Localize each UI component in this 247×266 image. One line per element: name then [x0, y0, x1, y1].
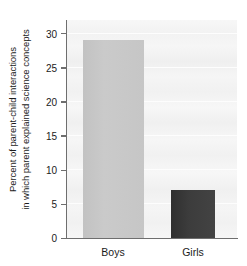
y-tick-label-25: 25 [17, 63, 57, 74]
x-category-label-boys: Boys [73, 246, 153, 258]
y-tick-mark [61, 33, 67, 34]
y-axis-title-line-2: in which parent explained science concep… [19, 29, 32, 210]
x-axis-line [66, 238, 238, 239]
y-tick-label-5: 5 [17, 199, 57, 210]
y-tick-mark [61, 204, 67, 205]
y-tick-label-10: 10 [17, 165, 57, 176]
y-tick-label-20: 20 [17, 97, 57, 108]
y-tick-label-30: 30 [17, 29, 57, 40]
gridline [67, 33, 237, 34]
y-tick-label-15: 15 [17, 131, 57, 142]
plot-area [67, 20, 237, 238]
y-tick-label-0: 0 [17, 233, 57, 244]
y-tick-mark [61, 101, 67, 102]
y-tick-mark [61, 238, 67, 239]
y-tick-mark [61, 135, 67, 136]
y-axis-line [66, 20, 67, 239]
y-tick-mark [61, 170, 67, 171]
x-category-label-girls: Girls [153, 246, 233, 258]
bar-boys [83, 40, 144, 238]
bar-chart-figure: Percent of parent-child interactions in … [0, 0, 247, 266]
y-tick-mark [61, 67, 67, 68]
bar-girls [171, 190, 215, 238]
y-axis-title-line-1: Percent of parent-child interactions [7, 29, 20, 210]
